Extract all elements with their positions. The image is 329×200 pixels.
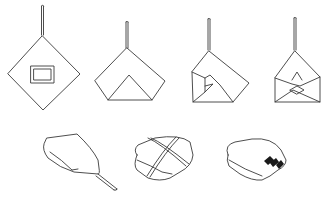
step-7-finished [227, 139, 286, 180]
step-4-right-fold [275, 17, 320, 102]
step-5-rolled [44, 134, 118, 190]
step-1-diamond-with-object [8, 5, 80, 110]
step-3-left-fold [192, 18, 249, 102]
wrapping-diagram [0, 0, 329, 200]
step-2-bottom-fold [95, 21, 165, 100]
step-6-tied [135, 137, 193, 180]
